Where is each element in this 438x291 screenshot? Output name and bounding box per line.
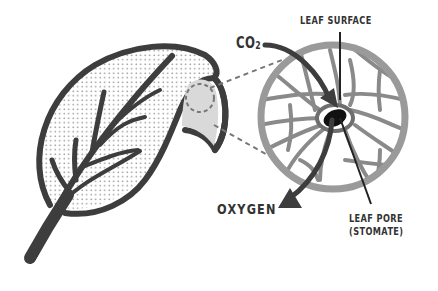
co2-label: CO2 (236, 34, 261, 52)
leaf-surface-label: LEAF SURFACE (300, 14, 372, 26)
leaf-pore-label: LEAF PORE (STOMATE) (349, 212, 403, 238)
leaf-icon (30, 46, 225, 258)
oxygen-label: OXYGEN (217, 201, 277, 217)
diagram-graphic (0, 0, 438, 291)
oxygen-text: OXYGEN (217, 201, 277, 217)
leaf-stomate-diagram: LEAF SURFACE CO2 OXYGEN LEAF PORE (STOMA… (0, 0, 438, 291)
leaf-pore-line1: LEAF PORE (349, 212, 403, 225)
co2-subscript: 2 (255, 40, 261, 51)
co2-text: CO (236, 34, 255, 52)
magnified-leaf-surface (260, 45, 405, 189)
leaf-surface-text: LEAF SURFACE (300, 14, 372, 26)
leaf-pore-line2: (STOMATE) (349, 225, 403, 238)
